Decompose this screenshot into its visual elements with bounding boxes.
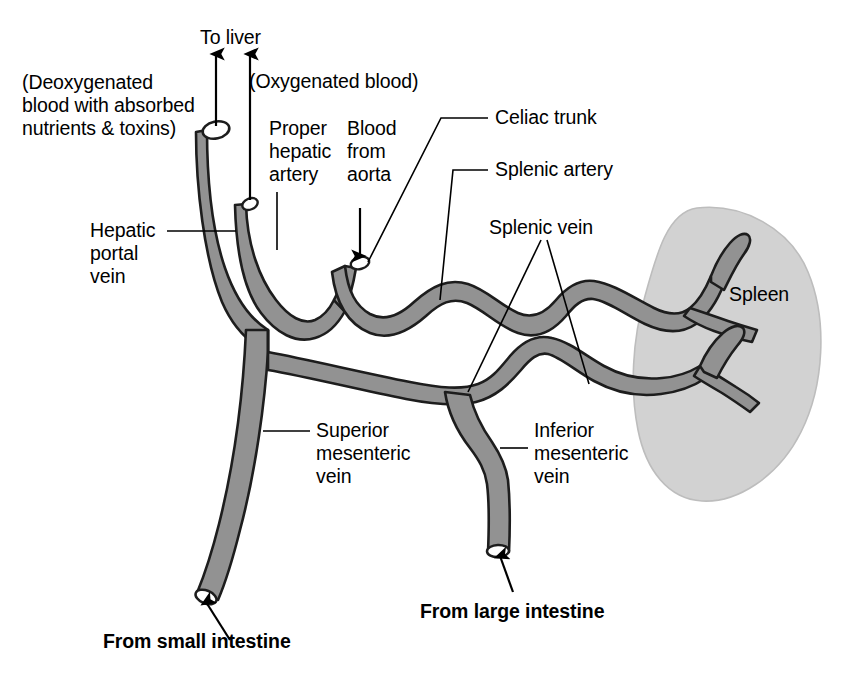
- diagram-canvas: To liver (Deoxygenated blood with absorb…: [0, 0, 859, 674]
- label-from-large-intestine: From large intestine: [420, 600, 604, 623]
- label-hepatic-portal-vein: Hepatic portal vein: [90, 219, 155, 288]
- label-splenic-artery: Splenic artery: [495, 158, 613, 181]
- label-celiac-trunk: Celiac trunk: [495, 106, 597, 129]
- splenic-artery-leader: [440, 170, 488, 300]
- label-inferior-mesenteric-vein: Inferior mesenteric vein: [534, 419, 628, 488]
- hepatic-portal-vein-vessel: [196, 130, 268, 352]
- blood-from-aorta-opening: [349, 255, 371, 272]
- from-large-intestine-arrow: [500, 556, 513, 592]
- label-deoxygenated-note: (Deoxygenated blood with absorbed nutrie…: [22, 71, 195, 140]
- label-spleen: Spleen: [729, 283, 789, 306]
- label-to-liver: To liver: [200, 26, 261, 49]
- inferior-mesenteric-vein-vessel: [445, 392, 510, 552]
- label-blood-from-aorta: Blood from aorta: [347, 117, 396, 186]
- large-intestine-opening: [487, 545, 509, 558]
- label-superior-mesenteric-vein: Superior mesenteric vein: [316, 419, 410, 488]
- vessel-openings: [193, 119, 509, 607]
- label-proper-hepatic-artery: Proper hepatic artery: [269, 117, 331, 186]
- label-from-small-intestine: From small intestine: [103, 630, 291, 653]
- label-oxygenated-note: (Oxygenated blood): [249, 70, 418, 93]
- superior-mesenteric-vein-vessel: [197, 330, 268, 600]
- label-splenic-vein: Splenic vein: [489, 216, 593, 239]
